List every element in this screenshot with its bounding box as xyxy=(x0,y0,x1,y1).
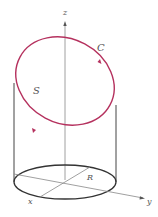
curve-label: C xyxy=(97,42,105,53)
stokes-cylinder-diagram: z y x R C S xyxy=(0,0,158,217)
y-axis xyxy=(14,174,143,198)
z-axis-label: z xyxy=(62,8,68,17)
curve-direction-arrow-lower xyxy=(32,128,36,133)
radius-label: R xyxy=(86,173,93,182)
y-axis-label: y xyxy=(146,197,152,206)
y-axis-arrowhead xyxy=(140,196,146,199)
surface-label: S xyxy=(33,85,40,96)
z-axis-arrowhead xyxy=(63,21,66,26)
x-axis-label: x xyxy=(28,197,33,206)
curve-direction-arrow-upper xyxy=(98,59,102,64)
